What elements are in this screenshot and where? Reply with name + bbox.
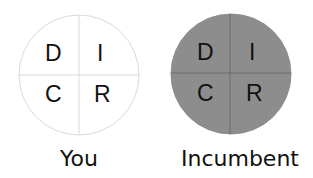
quadrant-label-c: C <box>197 80 214 106</box>
quadrant-label-i: I <box>249 39 255 65</box>
quadrant-label-r: R <box>246 80 263 106</box>
caption-incumbent: Incumbent <box>181 146 299 171</box>
quadrant-label-r: R <box>94 81 111 107</box>
quadrant-label-d: D <box>197 39 214 65</box>
circle-incumbent-fill <box>171 14 291 134</box>
disc-circle-incumbent: D I C R <box>171 14 291 134</box>
quadrant-label-d: D <box>45 40 62 66</box>
quadrant-label-i: I <box>97 40 103 66</box>
quadrant-label-c: C <box>45 81 62 107</box>
disc-circle-you: D I C R <box>19 15 139 135</box>
caption-you: You <box>59 146 98 171</box>
disc-diagram: D I C R You D I C R Incumbent <box>0 0 313 178</box>
